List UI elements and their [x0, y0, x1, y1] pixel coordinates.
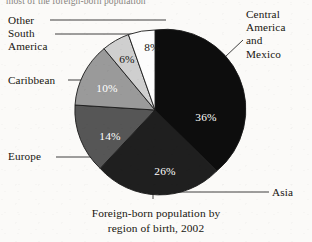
value-label-central-america-mexico: 36% — [195, 111, 217, 123]
value-label-asia: 26% — [154, 165, 176, 177]
figure-caption-line-2: region of birth, 2002 — [0, 221, 312, 236]
figure-caption-line-1: Foreign-born population by — [0, 206, 312, 221]
pie-chart-figure: most of the foreign-born population — [0, 0, 312, 242]
leader-line-central-america — [225, 40, 243, 57]
value-label-other: 8% — [144, 41, 160, 53]
value-label-europe: 14% — [99, 130, 121, 142]
callout-label-asia: Asia — [272, 186, 293, 199]
callout-label-south-america: South America — [8, 27, 48, 53]
value-label-south-america: 6% — [119, 53, 135, 65]
figure-caption: Foreign-born population by region of bir… — [0, 206, 312, 236]
callout-label-other: Other — [8, 14, 34, 27]
callout-label-europe: Europe — [8, 150, 41, 163]
callout-label-central-america-mexico: Central America and Mexico — [246, 8, 286, 61]
callout-label-caribbean: Caribbean — [8, 74, 55, 87]
value-label-caribbean: 10% — [96, 82, 118, 94]
